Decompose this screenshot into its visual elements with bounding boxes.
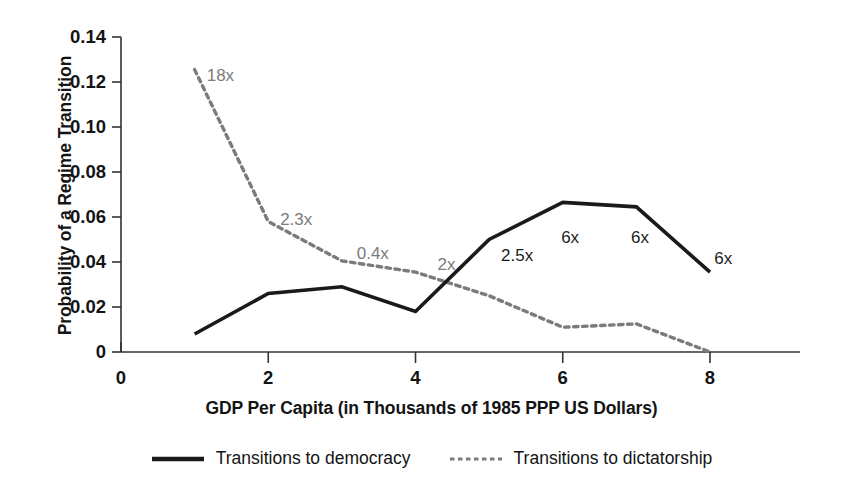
data-annotation: 6x — [631, 228, 649, 248]
plot-area — [0, 0, 863, 496]
series-line-dictatorship — [195, 70, 710, 352]
data-annotation: 2.3x — [280, 210, 312, 230]
x-tick-label: 4 — [396, 367, 436, 389]
x-tick-label: 8 — [690, 367, 730, 389]
x-axis-title: GDP Per Capita (in Thousands of 1985 PPP… — [0, 398, 863, 419]
regime-transition-chart: Probability of a Regime Transition 00.02… — [0, 0, 863, 496]
legend-label-dictatorship: Transitions to dictatorship — [514, 448, 713, 469]
chart-legend: Transitions to democracy Transitions to … — [0, 448, 863, 469]
legend-label-democracy: Transitions to democracy — [216, 448, 411, 469]
data-annotation: 0.4x — [357, 244, 389, 264]
x-tick-label: 0 — [101, 367, 141, 389]
data-annotation: 6x — [714, 249, 732, 269]
legend-item-dictatorship: Transitions to dictatorship — [449, 448, 713, 469]
data-annotation: 2x — [437, 255, 455, 275]
y-axis-tick-marks — [112, 37, 121, 352]
legend-swatch-solid-line-icon — [151, 453, 205, 465]
legend-swatch-dashed-line-icon — [449, 453, 503, 465]
data-annotation: 18x — [207, 66, 234, 86]
data-annotation: 2.5x — [501, 246, 533, 266]
x-tick-label: 2 — [248, 367, 288, 389]
data-annotation: 6x — [561, 228, 579, 248]
x-tick-label: 6 — [543, 367, 583, 389]
legend-item-democracy: Transitions to democracy — [151, 448, 411, 469]
